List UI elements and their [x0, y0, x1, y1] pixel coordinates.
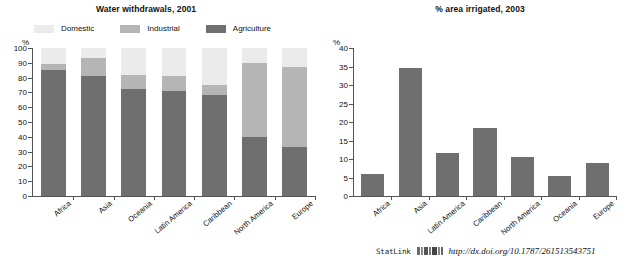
statlink-url[interactable]: http://dx.doi.org/10.1787/261513543751 — [449, 246, 596, 256]
x-axis-tick — [616, 196, 617, 200]
bar-segment-domestic — [162, 48, 187, 76]
x-axis-tick — [466, 196, 467, 200]
bar-segment-area-irrigated — [473, 128, 496, 196]
bar-caribbean[interactable] — [473, 128, 496, 196]
bar-slot — [275, 48, 315, 196]
chart-title-left: Water withdrawals, 2001 — [0, 4, 306, 14]
bar-europe[interactable] — [282, 48, 307, 196]
bar-slot — [33, 48, 73, 196]
y-axis-label: 15 — [339, 136, 348, 145]
bar-slot — [154, 48, 194, 196]
y-axis-tick — [28, 152, 33, 153]
x-axis-label-oceania: Oceania — [551, 199, 578, 224]
bar-slot — [504, 48, 541, 196]
x-axis-label-europe: Europe — [592, 199, 617, 222]
bar-oceania[interactable] — [121, 48, 146, 196]
y-axis-label: 40 — [339, 44, 348, 53]
bar-slot — [541, 48, 578, 196]
y-axis-tick — [349, 67, 354, 68]
bar-segment-domestic — [282, 48, 307, 67]
bar-segment-agriculture — [121, 89, 146, 196]
bar-north-america[interactable] — [511, 157, 534, 196]
bar-slot — [194, 48, 234, 196]
y-axis-label: 90 — [18, 58, 27, 67]
legend-item-agriculture: Agriculture — [206, 24, 271, 33]
y-axis-tick — [349, 85, 354, 86]
bar-segment-agriculture — [81, 76, 106, 196]
chart-title-right: % area irrigated, 2003 — [330, 4, 624, 14]
bar-slot — [73, 48, 113, 196]
x-axis-label-caribbean: Caribbean — [202, 199, 235, 228]
y-axis-tick — [349, 48, 354, 49]
y-axis-tick — [28, 92, 33, 93]
legend-label-domestic: Domestic — [61, 24, 94, 33]
bar-segment-industrial — [121, 75, 146, 90]
y-axis-tick — [28, 122, 33, 123]
x-axis-tick — [579, 196, 580, 200]
y-axis-label: 25 — [339, 99, 348, 108]
x-axis-label-oceania: Oceania — [126, 199, 153, 224]
x-axis-labels-left: AfricaAsiaOceaniaLatin AmericaCaribbeanN… — [33, 196, 315, 256]
bar-segment-area-irrigated — [361, 174, 384, 196]
statlink-label: StatLink — [376, 247, 411, 256]
legend-item-domestic: Domestic — [34, 24, 94, 33]
legend-label-industrial: Industrial — [147, 24, 179, 33]
y-axis-label: 30 — [339, 81, 348, 90]
bar-segment-agriculture — [242, 137, 267, 196]
y-axis-tick — [349, 196, 354, 197]
statlink-footer: StatLink http://dx.doi.org/10.1787/26151… — [376, 246, 595, 256]
bar-group-right — [354, 48, 616, 196]
x-axis-label-asia: Asia — [96, 199, 113, 215]
x-axis-label-africa: Africa — [52, 199, 73, 218]
bar-latin-america[interactable] — [436, 153, 459, 196]
x-axis-label-latin-america: Latin America — [425, 199, 466, 235]
bar-slot — [114, 48, 154, 196]
bar-caribbean[interactable] — [202, 48, 227, 196]
bar-segment-agriculture — [202, 95, 227, 196]
x-axis-tick — [315, 196, 316, 200]
y-axis-tick — [349, 104, 354, 105]
x-axis-tick — [275, 196, 276, 200]
y-axis-label: 50 — [18, 118, 27, 127]
y-axis-label: 5 — [344, 173, 348, 182]
bar-africa[interactable] — [361, 174, 384, 196]
y-axis-tick — [349, 122, 354, 123]
bar-asia[interactable] — [81, 48, 106, 196]
y-axis-label: 0 — [23, 192, 27, 201]
bar-africa[interactable] — [41, 48, 66, 196]
x-axis-tick — [541, 196, 542, 200]
x-axis-label-north-america: North America — [232, 199, 275, 237]
bar-latin-america[interactable] — [162, 48, 187, 196]
x-axis-tick — [194, 196, 195, 200]
bar-segment-agriculture — [162, 91, 187, 196]
bar-slot — [234, 48, 274, 196]
legend-label-agriculture: Agriculture — [233, 24, 271, 33]
bar-slot — [391, 48, 428, 196]
bar-north-america[interactable] — [242, 48, 267, 196]
y-axis-tick — [28, 78, 33, 79]
bar-segment-area-irrigated — [511, 157, 534, 196]
legend-item-industrial: Industrial — [120, 24, 179, 33]
figure-container: Water withdrawals, 2001 Domestic Industr… — [0, 0, 624, 265]
bar-segment-area-irrigated — [436, 153, 459, 196]
x-axis-label-europe: Europe — [290, 199, 315, 222]
x-axis-tick — [391, 196, 392, 200]
bar-asia[interactable] — [399, 68, 422, 196]
bar-segment-industrial — [162, 76, 187, 91]
bar-segment-domestic — [202, 48, 227, 85]
x-axis-tick — [114, 196, 115, 200]
bar-oceania[interactable] — [548, 176, 571, 196]
chart-panel-water-withdrawals: Water withdrawals, 2001 Domestic Industr… — [0, 0, 320, 265]
bar-segment-agriculture — [282, 147, 307, 196]
y-axis-tick — [28, 107, 33, 108]
y-axis-label: 10 — [339, 155, 348, 164]
x-axis-tick — [154, 196, 155, 200]
bar-segment-domestic — [242, 48, 267, 63]
bar-slot — [354, 48, 391, 196]
y-axis-tick — [349, 141, 354, 142]
plot-area-left: AfricaAsiaOceaniaLatin AmericaCaribbeanN… — [32, 48, 315, 197]
bar-europe[interactable] — [586, 163, 609, 196]
x-axis-label-north-america: North America — [499, 199, 542, 237]
y-axis-tick — [28, 196, 33, 197]
x-axis-label-caribbean: Caribbean — [471, 199, 504, 228]
